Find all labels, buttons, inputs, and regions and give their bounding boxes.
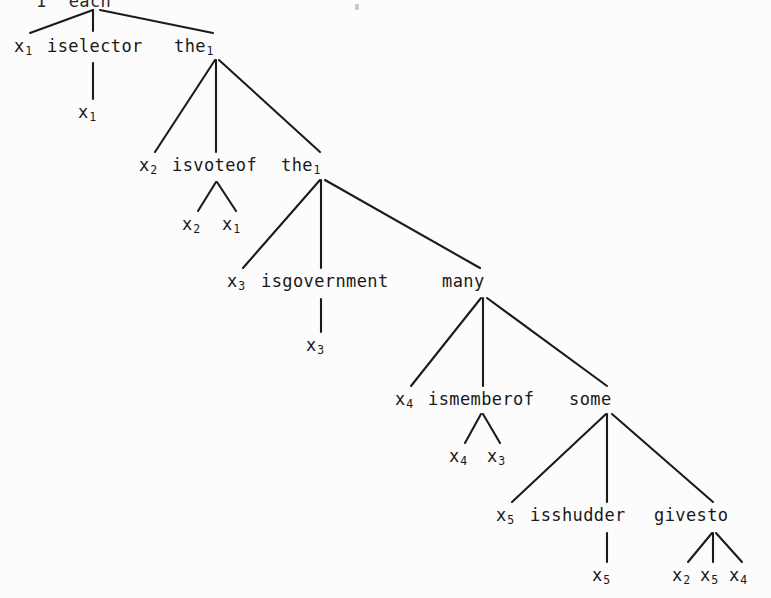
l4-leaf-b-symbol: x <box>487 446 498 466</box>
l1-leaf-symbol: x <box>78 102 89 122</box>
l2-var-symbol: x <box>139 155 150 175</box>
leaf-level-1-x1: x1 <box>78 104 96 124</box>
l5-predicate-label: isshudder <box>530 505 626 525</box>
l1-var-subscript: 1 <box>25 44 32 58</box>
l2-leaf-a-symbol: x <box>182 214 193 234</box>
node-level-2-predicate: isvoteof <box>172 157 257 174</box>
edge-l3-quant-to-l4-quant <box>487 298 607 386</box>
leaf-level-5-quant-x2: x2 <box>672 567 690 587</box>
leaf-level-3-x3: x3 <box>306 337 324 357</box>
top-fragment-right: each <box>69 0 112 11</box>
l2-predicate-label: isvoteof <box>172 155 257 175</box>
edge-root-to-l1-var <box>30 10 93 33</box>
leaf-level-5-x5: x5 <box>592 567 610 587</box>
l4-var-symbol: x <box>395 389 406 409</box>
edge-l2-pred-to-leaf-a <box>198 182 216 211</box>
node-level-5-variable: x5 <box>496 507 514 527</box>
l4-quantifier-label: some <box>569 389 612 409</box>
l4-leaf-a-symbol: x <box>449 446 460 466</box>
l5-q-leaf-c-symbol: x <box>729 565 740 585</box>
l2-leaf-b-symbol: x <box>222 214 233 234</box>
edge-l5-quant-to-leaf-a <box>688 533 712 562</box>
node-level-2-variable: x2 <box>139 157 157 177</box>
l3-leaf-subscript: 3 <box>317 343 324 357</box>
l1-var-symbol: x <box>14 36 25 56</box>
top-row-fragment: 1each <box>36 0 111 11</box>
scan-speck <box>355 4 359 10</box>
l3-predicate-label: isgovernment <box>261 271 389 291</box>
node-level-1-quantifier: the1 <box>174 38 213 58</box>
node-level-2-quantifier: the1 <box>281 157 320 177</box>
leaf-level-4-x3: x3 <box>487 448 505 468</box>
edge-l1-quant-to-l2-quant <box>219 60 320 152</box>
node-level-3-predicate: isgovernment <box>261 273 389 290</box>
l5-quantifier-label: givesto <box>654 505 728 525</box>
l2-quantifier-subscript: 1 <box>313 163 320 177</box>
l2-leaf-b-subscript: 1 <box>233 222 240 236</box>
node-level-1-variable: x1 <box>14 38 32 58</box>
l5-leaf-subscript: 5 <box>603 573 610 587</box>
l4-leaf-b-subscript: 3 <box>498 454 505 468</box>
l1-leaf-subscript: 1 <box>89 110 96 124</box>
l3-quantifier-label: many <box>442 271 485 291</box>
l4-leaf-a-subscript: 4 <box>460 454 467 468</box>
l5-q-leaf-a-subscript: 2 <box>683 573 690 587</box>
node-level-4-variable: x4 <box>395 391 413 411</box>
l5-q-leaf-c-subscript: 4 <box>740 573 747 587</box>
l5-q-leaf-b-subscript: 5 <box>711 573 718 587</box>
edge-l4-quant-to-l5-var <box>512 414 606 502</box>
l1-predicate-label: iselector <box>47 36 143 56</box>
l2-var-subscript: 2 <box>150 163 157 177</box>
l2-leaf-a-subscript: 2 <box>193 222 200 236</box>
edge-l4-pred-to-leaf-a <box>465 414 481 443</box>
derivation-tree-page: 1each <box>0 0 771 598</box>
l5-q-leaf-b-symbol: x <box>700 565 711 585</box>
l1-quantifier-subscript: 1 <box>206 44 213 58</box>
edge-l4-quant-to-l5-quant <box>612 414 713 502</box>
edge-l2-quant-to-l3-var <box>243 180 320 268</box>
node-level-4-quantifier: some <box>569 391 612 408</box>
edge-root-to-l1-quant <box>100 10 213 33</box>
leaf-level-2-x1: x1 <box>222 216 240 236</box>
leaf-level-5-quant-x4: x4 <box>729 567 747 587</box>
l2-quantifier-label: the <box>281 155 313 175</box>
l3-var-subscript: 3 <box>238 279 245 293</box>
l3-leaf-symbol: x <box>306 335 317 355</box>
top-fragment-left: 1 <box>36 0 47 11</box>
edge-l5-quant-to-leaf-c <box>716 533 742 562</box>
l5-leaf-symbol: x <box>592 565 603 585</box>
node-level-5-predicate: isshudder <box>530 507 626 524</box>
node-level-3-variable: x3 <box>227 273 245 293</box>
node-level-5-quantifier: givesto <box>654 507 728 524</box>
l5-q-leaf-a-symbol: x <box>672 565 683 585</box>
edge-l1-quant-to-l2-var <box>155 60 215 152</box>
l3-var-symbol: x <box>227 271 238 291</box>
leaf-level-5-quant-x5: x5 <box>700 567 718 587</box>
node-level-1-predicate: iselector <box>47 38 143 55</box>
node-level-4-predicate: ismemberof <box>428 391 534 408</box>
edge-l4-pred-to-leaf-b <box>483 414 500 443</box>
l5-var-subscript: 5 <box>507 513 514 527</box>
edge-l2-pred-to-leaf-b <box>217 182 236 211</box>
leaf-level-2-x2: x2 <box>182 216 200 236</box>
l4-var-subscript: 4 <box>406 397 413 411</box>
node-level-3-quantifier: many <box>442 273 485 290</box>
leaf-level-4-x4: x4 <box>449 448 467 468</box>
edge-l2-quant-to-l3-quant <box>325 180 480 268</box>
l4-predicate-label: ismemberof <box>428 389 534 409</box>
l5-var-symbol: x <box>496 505 507 525</box>
edge-l3-quant-to-l4-var <box>411 298 481 386</box>
l1-quantifier-label: the <box>174 36 206 56</box>
